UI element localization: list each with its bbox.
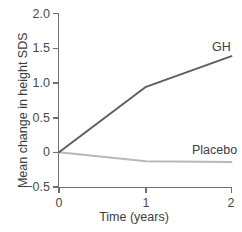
line-chart: 2.0 1.5 1.0 0.5 0 −0.5 0 1 2 Time (years… — [0, 0, 242, 232]
y-axis-title: Mean change in height SDS — [17, 20, 30, 200]
x-axis-title: Time (years) — [0, 211, 242, 224]
y-tick-label-2.0: 2.0 — [10, 7, 50, 20]
x-tick-label-2: 2 — [228, 197, 235, 210]
series-line-gh — [59, 56, 232, 152]
series-label-placebo: Placebo — [192, 144, 237, 157]
x-tick-label-1: 1 — [143, 197, 150, 210]
series-label-gh: GH — [212, 41, 231, 54]
x-tick-label-0: 0 — [56, 197, 63, 210]
